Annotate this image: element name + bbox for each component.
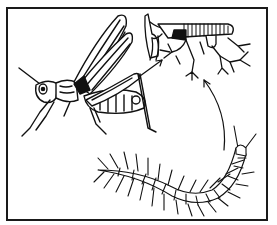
grasshopper-drawing bbox=[19, 15, 156, 136]
arrow-grasshopper-to-trachea bbox=[140, 60, 162, 76]
diagram-canvas bbox=[0, 0, 277, 225]
arrow-centipede-to-trachea bbox=[204, 80, 225, 150]
tracheal-system-drawing bbox=[145, 14, 250, 80]
centipede-drawing bbox=[94, 126, 256, 216]
